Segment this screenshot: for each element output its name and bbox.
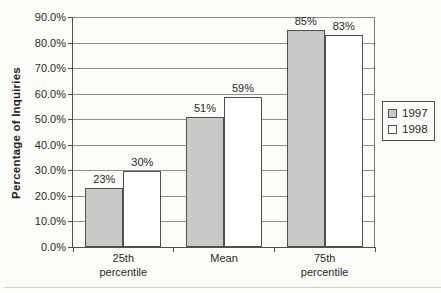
- legend-swatch-icon: [388, 125, 397, 134]
- y-tick-label: 40.0%: [20, 139, 66, 152]
- y-tick-label: 90.0%: [20, 11, 66, 24]
- legend-item-1998: 1998: [388, 121, 430, 137]
- x-category-label: 75th percentile: [291, 251, 359, 279]
- bar-value-label: 23%: [82, 173, 126, 186]
- y-tick-label: 60.0%: [20, 88, 66, 101]
- bar-1997-75th-percentile: [287, 30, 325, 247]
- legend-swatch-icon: [388, 109, 397, 118]
- legend-label: 1998: [402, 122, 428, 136]
- y-tick-label: 20.0%: [20, 190, 66, 203]
- y-tick-label: 50.0%: [20, 113, 66, 126]
- y-tick-label: 30.0%: [20, 164, 66, 177]
- bar-1998-75th-percentile: [325, 35, 363, 247]
- y-tick-label: 70.0%: [20, 62, 66, 75]
- y-tick-label: 10.0%: [20, 215, 66, 228]
- bar-1998-25th-percentile: [123, 171, 161, 248]
- x-axis-tick: [375, 247, 376, 252]
- legend: 19971998: [382, 101, 435, 141]
- legend-item-1997: 1997: [388, 105, 430, 121]
- gridline: [73, 17, 375, 18]
- y-axis-line: [72, 18, 73, 248]
- x-axis-tick: [274, 247, 275, 252]
- x-category-label: 25th percentile: [89, 251, 157, 279]
- y-tick-label: 80.0%: [20, 37, 66, 50]
- bar-chart: Percentage of Inquiries 19971998 23%30%2…: [0, 0, 441, 293]
- x-axis-tick: [73, 247, 74, 252]
- legend-label: 1997: [402, 106, 428, 120]
- bar-value-label: 51%: [183, 102, 227, 115]
- bar-value-label: 59%: [221, 82, 265, 95]
- bar-1997-mean: [186, 117, 224, 247]
- x-category-label: Mean: [190, 251, 258, 265]
- page-divider-line: [4, 287, 441, 288]
- plot-right-border: [374, 18, 375, 248]
- bar-1998-mean: [224, 97, 262, 247]
- bar-value-label: 83%: [322, 20, 366, 33]
- x-axis-line: [72, 247, 375, 248]
- bar-value-label: 30%: [120, 156, 164, 169]
- y-tick-label: 0.0%: [20, 241, 66, 254]
- x-axis-tick: [173, 247, 174, 252]
- bar-1997-25th-percentile: [85, 188, 123, 247]
